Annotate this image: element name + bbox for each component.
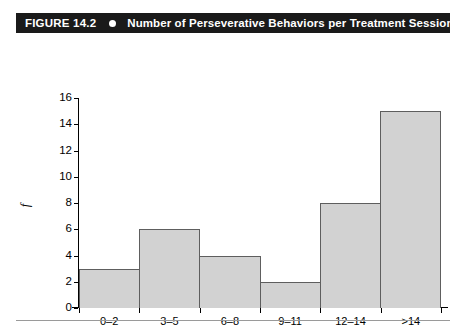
y-axis-tick-label: 0 [66, 302, 72, 314]
x-axis-tick-mark [381, 308, 382, 313]
bar [139, 229, 200, 308]
y-axis-tick-label: 2 [66, 276, 72, 288]
x-axis-tick-label: 3–5 [139, 315, 199, 331]
x-axis-tick-mark [441, 308, 442, 313]
x-axis-tick-label: 6–8 [200, 315, 260, 331]
bullet-dot-icon [109, 20, 116, 27]
x-axis-tick-mark [260, 308, 261, 313]
y-axis-tick-label: 14 [59, 119, 72, 131]
x-axis-tick-mark [320, 308, 321, 313]
y-axis-tick-mark [74, 177, 78, 178]
x-axis-tick-label: 0–2 [79, 315, 139, 331]
y-axis-tick-mark [74, 282, 78, 283]
figure-title-banner: FIGURE 14.2 Number of Perseverative Beha… [16, 13, 450, 33]
x-axis-tick-label: 9–11 [260, 315, 320, 331]
y-axis-title: f [18, 204, 33, 207]
x-axis-tick-mark [79, 308, 80, 313]
y-axis-tick-label: 4 [66, 250, 72, 262]
y-axis-tick-labels: 1614121086420 [46, 98, 72, 307]
y-axis-tick-mark [74, 124, 78, 125]
x-axis-tick-label: 12–14 [320, 315, 380, 331]
y-axis-tick-label: 10 [59, 171, 72, 183]
bar-series [79, 98, 441, 308]
y-axis-tick-mark [74, 151, 78, 152]
y-axis-tick-mark [74, 308, 78, 309]
x-axis-tick-marks [79, 308, 441, 313]
figure-title-text: Number of Perseverative Behaviors per Tr… [127, 17, 453, 29]
bar [320, 203, 381, 308]
y-axis-tick-mark [74, 256, 78, 257]
y-axis-tick-label: 12 [59, 145, 72, 157]
bar [380, 111, 441, 308]
histogram-chart: f 1614121086420 0–23–56–89–1112–14>14 Pe… [0, 38, 466, 313]
y-axis-tick-mark [74, 98, 78, 99]
y-axis-tick-mark [74, 203, 78, 204]
y-axis-tick-label: 16 [59, 92, 72, 104]
y-axis-tick-mark [74, 229, 78, 230]
plot-area [79, 98, 441, 308]
x-axis-tick-mark [139, 308, 140, 313]
x-axis-tick-label: >14 [381, 315, 441, 331]
bar [199, 256, 260, 309]
bar [79, 269, 140, 308]
y-axis-tick-label: 6 [66, 224, 72, 236]
footer-divider [16, 320, 450, 321]
x-axis-tick-labels: 0–23–56–89–1112–14>14 [79, 315, 441, 331]
figure-number-label: FIGURE 14.2 [25, 17, 96, 29]
bar [260, 282, 321, 308]
x-axis-tick-mark [200, 308, 201, 313]
y-axis-tick-label: 8 [66, 197, 72, 209]
